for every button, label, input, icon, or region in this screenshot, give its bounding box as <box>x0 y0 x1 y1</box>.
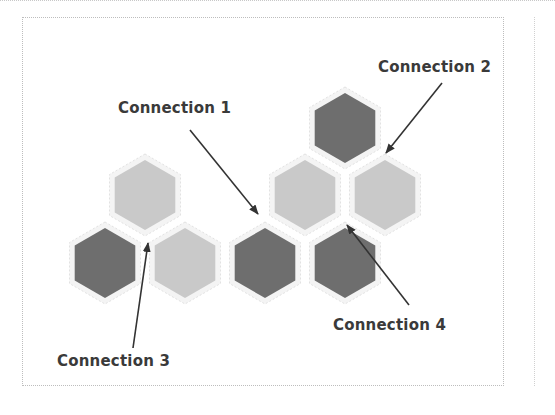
arrow-connection-1 <box>190 130 258 214</box>
hexagon-group <box>70 87 421 304</box>
arrow-connection-2 <box>386 83 442 153</box>
label-connection-2: Connection 2 <box>378 58 491 76</box>
label-connection-1: Connection 1 <box>118 99 231 117</box>
label-connection-4: Connection 4 <box>333 316 446 334</box>
label-connection-3: Connection 3 <box>57 352 170 370</box>
